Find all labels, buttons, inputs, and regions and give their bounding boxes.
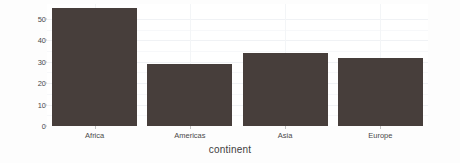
y-axis-tick-mark [44,83,47,84]
x-axis-title: continent [0,144,460,155]
y-axis-tick-label: 0 [22,122,46,131]
y-axis-title: count [2,0,16,28]
bar-asia [243,53,328,126]
y-axis-tick-mark [44,40,47,41]
x-axis-tick-label-americas: Americas [174,131,205,140]
y-axis-tick-label: 10 [22,100,46,109]
x-axis-tick-label-europe: Europe [368,131,392,140]
x-axis-tick-mark [285,126,286,129]
y-axis-tick-label: 30 [22,57,46,66]
bar-chart: count 01020304050 AfricaAmericasAsiaEuro… [0,0,460,163]
bar-americas [147,64,232,126]
plot-panel [47,4,428,126]
y-axis-tick-label: 40 [22,36,46,45]
y-axis-tick-mark [44,126,47,127]
y-axis-tick-label: 20 [22,79,46,88]
x-axis-tick-label-asia: Asia [278,131,293,140]
x-axis-tick-mark [190,126,191,129]
x-axis-tick-mark [380,126,381,129]
y-axis-tick-mark [44,18,47,19]
x-axis-tick-label-africa: Africa [85,131,104,140]
x-axis-tick-mark [95,126,96,129]
y-axis-tick-mark [44,104,47,105]
y-axis-tick-labels: 01020304050 [22,0,46,163]
bar-africa [52,8,137,126]
bar-europe [338,58,423,126]
y-axis-tick-label: 50 [22,14,46,23]
y-axis-tick-mark [44,61,47,62]
